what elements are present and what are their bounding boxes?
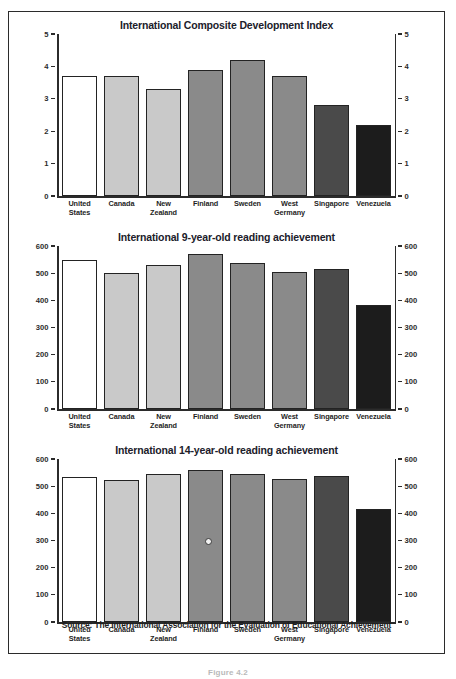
category-label-line: Venezuela bbox=[353, 413, 395, 422]
y-axis-tick-mark bbox=[398, 195, 402, 196]
x-axis-baseline bbox=[57, 409, 396, 411]
category-label: Venezuela bbox=[353, 413, 395, 430]
y-axis-tick-label: 3 bbox=[44, 94, 48, 103]
y-axis-tick-label: 600 bbox=[36, 455, 49, 464]
bar-slot bbox=[227, 246, 269, 409]
bar bbox=[188, 70, 223, 196]
y-axis-tick-mark bbox=[51, 594, 55, 595]
category-label-line: Zealand bbox=[143, 635, 185, 644]
category-label-line: States bbox=[59, 422, 101, 431]
bar bbox=[62, 76, 97, 196]
bar bbox=[188, 470, 223, 622]
category-label: NewZealand bbox=[143, 200, 185, 217]
y-axis-tick-mark bbox=[51, 163, 55, 164]
y-axis-tick-label: 100 bbox=[36, 377, 49, 386]
y-axis-tick-label: 0 bbox=[44, 192, 48, 201]
y-axis-tick-label: 500 bbox=[405, 269, 418, 278]
chart-title: International Composite Development Inde… bbox=[9, 12, 444, 33]
chart-panel-reading-achievement-9: International 9-year-old reading achieve… bbox=[9, 224, 444, 437]
x-axis-baseline bbox=[57, 196, 396, 198]
y-axis-tick-mark bbox=[51, 300, 55, 301]
y-axis-tick-mark bbox=[398, 594, 402, 595]
y-axis-right-line bbox=[395, 246, 397, 409]
bar-slot bbox=[185, 246, 227, 409]
y-axis-tick-mark bbox=[398, 245, 402, 246]
y-axis-tick-label: 500 bbox=[405, 482, 418, 491]
y-axis-right-ticks: 0100200300400500600 bbox=[398, 459, 444, 622]
category-label: Sweden bbox=[227, 413, 269, 430]
figure-caption: Figure 4.2 bbox=[0, 668, 456, 679]
bar bbox=[146, 265, 181, 409]
plot-area: 0100200300400500600 0100200300400500600 bbox=[9, 246, 444, 409]
y-axis-tick-mark bbox=[398, 540, 402, 541]
y-axis-tick-label: 600 bbox=[405, 242, 418, 251]
y-axis-tick-mark bbox=[398, 458, 402, 459]
y-axis-tick-mark bbox=[51, 245, 55, 246]
y-axis-right-line bbox=[395, 34, 397, 196]
bar bbox=[272, 76, 307, 196]
bar-slot bbox=[353, 34, 395, 196]
y-axis-tick-mark bbox=[51, 567, 55, 568]
y-axis-tick-mark bbox=[51, 354, 55, 355]
y-axis-tick-label: 300 bbox=[405, 536, 418, 545]
category-labels: UnitedStatesCanadaNewZealandFinlandSwede… bbox=[59, 200, 395, 217]
bar-slot bbox=[227, 459, 269, 622]
y-axis-tick-label: 4 bbox=[405, 62, 409, 71]
y-axis-tick-mark bbox=[398, 98, 402, 99]
y-axis-tick-mark bbox=[398, 33, 402, 34]
bar bbox=[146, 474, 181, 622]
y-axis-tick-label: 1 bbox=[405, 159, 409, 168]
chart-panel-composite-development-index: International Composite Development Inde… bbox=[9, 12, 444, 224]
y-axis-tick-label: 4 bbox=[44, 62, 48, 71]
category-label-line: Zealand bbox=[143, 422, 185, 431]
y-axis-tick-mark bbox=[51, 131, 55, 132]
bars-zone bbox=[59, 459, 395, 622]
bar-slot bbox=[59, 246, 101, 409]
category-label-line: States bbox=[59, 209, 101, 218]
y-axis-tick-label: 200 bbox=[36, 563, 49, 572]
bar bbox=[272, 272, 307, 409]
bar bbox=[314, 476, 349, 622]
y-axis-tick-label: 400 bbox=[405, 509, 418, 518]
chart-panel-reading-achievement-14: International 14-year-old reading achiev… bbox=[9, 437, 444, 637]
y-axis-tick-label: 200 bbox=[405, 563, 418, 572]
bar-slot bbox=[269, 246, 311, 409]
y-axis-tick-mark bbox=[398, 381, 402, 382]
bar bbox=[146, 89, 181, 196]
bar bbox=[188, 254, 223, 409]
bar-slot bbox=[269, 459, 311, 622]
category-label-line: Singapore bbox=[311, 200, 353, 209]
bar-slot bbox=[311, 34, 353, 196]
plot-area: 012345 012345 bbox=[9, 34, 444, 196]
category-label: Venezuela bbox=[353, 200, 395, 217]
category-label-line: Sweden bbox=[227, 413, 269, 422]
y-axis-left-ticks: 0100200300400500600 bbox=[9, 246, 55, 409]
y-axis-right-ticks: 0100200300400500600 bbox=[398, 246, 444, 409]
bar-slot bbox=[101, 459, 143, 622]
bar-slot bbox=[143, 34, 185, 196]
y-axis-tick-mark bbox=[51, 486, 55, 487]
y-axis-left-ticks: 012345 bbox=[9, 34, 55, 196]
y-axis-tick-mark bbox=[398, 163, 402, 164]
category-label: Finland bbox=[185, 200, 227, 217]
bar bbox=[314, 269, 349, 409]
category-label-line: Germany bbox=[269, 422, 311, 431]
bar bbox=[62, 477, 97, 622]
bar-slot bbox=[227, 34, 269, 196]
bar bbox=[356, 305, 391, 409]
bar-slot bbox=[101, 34, 143, 196]
bar-slot bbox=[101, 246, 143, 409]
y-axis-tick-label: 0 bbox=[405, 192, 409, 201]
y-axis-tick-label: 500 bbox=[36, 482, 49, 491]
y-axis-tick-mark bbox=[51, 540, 55, 541]
bar bbox=[272, 479, 307, 622]
y-axis-tick-mark bbox=[398, 300, 402, 301]
chart-title: International 9-year-old reading achieve… bbox=[9, 224, 444, 245]
bar-slot bbox=[353, 246, 395, 409]
y-axis-tick-label: 300 bbox=[405, 323, 418, 332]
category-label: UnitedStates bbox=[59, 413, 101, 430]
category-label-line: Sweden bbox=[227, 200, 269, 209]
y-axis-tick-label: 600 bbox=[405, 455, 418, 464]
y-axis-left-ticks: 0100200300400500600 bbox=[9, 459, 55, 622]
y-axis-tick-label: 500 bbox=[36, 269, 49, 278]
